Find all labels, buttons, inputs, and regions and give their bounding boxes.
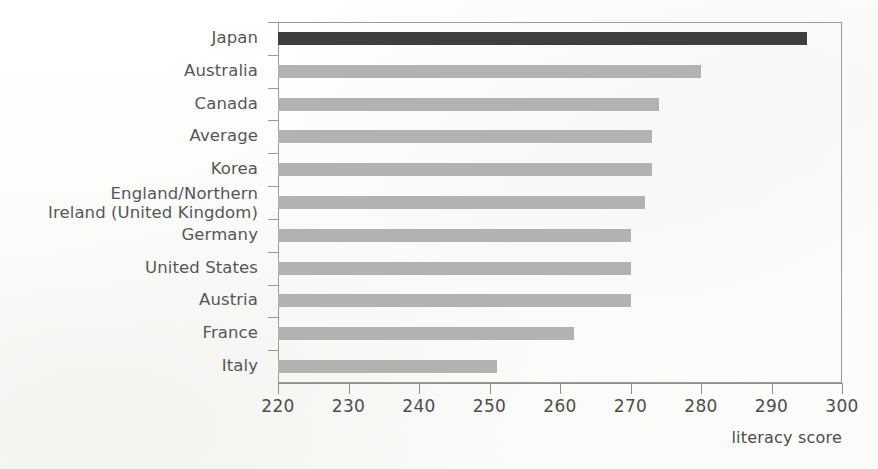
category-label-canada: Canada xyxy=(195,95,258,113)
bar-australia xyxy=(278,65,701,78)
category-label-france: France xyxy=(203,324,258,342)
bar-canada xyxy=(278,98,659,111)
category-label-united-states: United States xyxy=(145,259,258,277)
bars-layer xyxy=(278,22,842,383)
category-axis-labels: JapanAustraliaCanadaAverageKoreaEngland/… xyxy=(0,22,268,383)
y-axis-tick xyxy=(268,285,279,286)
y-axis-tick xyxy=(268,153,279,154)
x-axis-tick xyxy=(349,383,350,394)
bar-japan xyxy=(278,32,807,45)
y-axis-tick xyxy=(268,55,279,56)
x-axis-tick xyxy=(278,383,279,394)
category-label-australia: Australia xyxy=(184,62,258,80)
y-axis-tick xyxy=(268,252,279,253)
x-axis-tick xyxy=(842,383,843,394)
y-axis-tick xyxy=(268,88,279,89)
bar-korea xyxy=(278,163,652,176)
category-label-korea: Korea xyxy=(211,160,258,178)
category-label-england-northern: England/Northern Ireland (United Kingdom… xyxy=(48,184,258,222)
x-axis-tick-label: 240 xyxy=(402,396,435,416)
x-axis-tick-label: 250 xyxy=(473,396,506,416)
y-axis-tick xyxy=(268,186,279,187)
bar-united-states xyxy=(278,262,631,275)
x-axis-tick-label: 260 xyxy=(543,396,576,416)
x-axis-tick xyxy=(560,383,561,394)
x-axis-tick xyxy=(772,383,773,394)
x-axis-tick xyxy=(490,383,491,394)
category-label-japan: Japan xyxy=(211,29,258,47)
x-axis-tick-label: 220 xyxy=(261,396,294,416)
bar-germany xyxy=(278,229,631,242)
y-axis-tick xyxy=(268,22,279,23)
x-axis-title: literacy score xyxy=(731,428,842,447)
x-axis-tick xyxy=(419,383,420,394)
y-axis-tick xyxy=(268,219,279,220)
category-label-average: Average xyxy=(190,127,258,145)
x-axis-tick-label: 270 xyxy=(614,396,647,416)
x-axis-tick-label: 280 xyxy=(684,396,717,416)
category-label-austria: Austria xyxy=(199,291,258,309)
x-axis-tick-label: 300 xyxy=(825,396,858,416)
y-axis-tick xyxy=(268,317,279,318)
x-axis-tick xyxy=(631,383,632,394)
literacy-score-bar-chart: JapanAustraliaCanadaAverageKoreaEngland/… xyxy=(0,0,878,469)
x-axis-tick-label: 230 xyxy=(332,396,365,416)
y-axis-tick xyxy=(268,120,279,121)
bar-austria xyxy=(278,294,631,307)
x-axis-tick-label: 290 xyxy=(755,396,788,416)
category-label-italy: Italy xyxy=(222,357,258,375)
bar-france xyxy=(278,327,574,340)
x-axis-tick xyxy=(701,383,702,394)
bar-average xyxy=(278,130,652,143)
bar-england-northern xyxy=(278,196,645,209)
category-label-germany: Germany xyxy=(181,226,258,244)
y-axis-tick xyxy=(268,350,279,351)
bar-italy xyxy=(278,360,497,373)
